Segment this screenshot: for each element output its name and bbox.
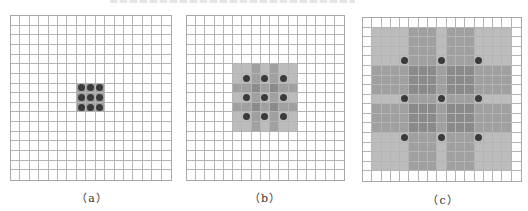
grid-cell [475,56,484,66]
grid-cell [391,28,400,38]
grid-cell [465,56,474,66]
grid-cell [437,37,446,47]
grid-cell [335,55,344,65]
grid-cell [49,16,58,26]
grid-cell [49,112,58,122]
grid-cell [456,104,465,114]
grid-cell [289,26,298,36]
grid-cell [86,151,95,161]
grid-cell [363,133,372,143]
grid-cell [493,104,502,114]
grid-cell [86,26,95,36]
grid-cell [419,152,428,162]
grid-cell [307,122,316,132]
grid-cell [30,93,39,103]
grid-cell [400,85,409,95]
grid-cell [252,161,261,171]
grid-cell [289,112,298,122]
grid-cell [143,122,152,132]
grid-cell [115,151,124,161]
grid-cell [261,16,270,26]
grid-cell [115,26,124,36]
grid-cell [143,64,152,74]
grid-cell [493,28,502,38]
grid-cell [233,84,242,94]
grid-cell [252,84,261,94]
grid-cell [242,122,251,132]
grid-cell [86,64,95,74]
grid-cell [409,123,418,133]
grid-cell [512,18,521,28]
grid-cell [39,74,48,84]
grid-cell [124,93,133,103]
grid-cell [391,171,400,181]
grid-cell [400,104,409,114]
grid-cell [400,162,409,172]
grid-cell [391,152,400,162]
grid-cell [215,16,224,26]
grid-cell [77,151,86,161]
grid-cell [224,45,233,55]
grid-cell [224,103,233,113]
grid-cell [363,66,372,76]
grid-cell [372,114,381,124]
grid-cell [475,171,484,181]
grid-cell [502,95,511,105]
grid-cell [49,161,58,171]
grid-cell [39,84,48,94]
grid-cell [96,64,105,74]
grid-cell [502,85,511,95]
grid-cell [465,133,474,143]
grid-cell [215,45,224,55]
grid-cell [162,45,171,55]
grid-cell [484,171,493,181]
grid-cell [205,170,214,180]
grid-cell [307,55,316,65]
grid-cell [96,151,105,161]
grid-cell [428,104,437,114]
grid-cell [270,64,279,74]
grid-cell [133,132,142,142]
grid-cell [58,26,67,36]
grid-cell [233,122,242,132]
grid-cell [224,35,233,45]
grid-cell [307,161,316,171]
grid-cell [456,162,465,172]
grid-cell [30,112,39,122]
grid-cell [335,35,344,45]
grid-cell [233,45,242,55]
grid-cell [307,132,316,142]
grid-cell [143,93,152,103]
grid-cell [196,132,205,142]
grid-cell [205,64,214,74]
grid-cell [316,74,325,84]
grid-cell [261,151,270,161]
grid-cell [437,152,446,162]
grid-cell [419,47,428,57]
grid-cell [335,45,344,55]
grid-cell [456,47,465,57]
grid-cell [205,16,214,26]
grid-cell [484,28,493,38]
grid-cell [242,16,251,26]
grid-cell [67,112,76,122]
grid-cell [115,16,124,26]
grid-cell [326,16,335,26]
grid-cell [205,112,214,122]
grid-cell [30,64,39,74]
grid-cell [456,143,465,153]
grid-cell [242,132,251,142]
grid-cell [316,64,325,74]
grid-cell [428,162,437,172]
grid-cell [270,151,279,161]
grid-cell [30,151,39,161]
grid-cell [77,103,86,113]
grid-cell [233,103,242,113]
grid-cell [133,170,142,180]
grid-cell [428,66,437,76]
grid-cell [409,114,418,124]
grid-cell [316,132,325,142]
grid-cell [456,123,465,133]
grid-cell [512,95,521,105]
grid-cell [465,114,474,124]
